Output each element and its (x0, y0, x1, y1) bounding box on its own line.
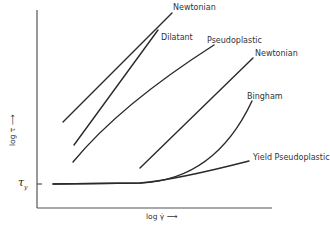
bingham-curve (53, 101, 252, 184)
tau-subscript: y (24, 183, 27, 190)
tau-y-label: τy (18, 176, 27, 190)
label-pseudoplastic: Pseudoplastic (207, 37, 262, 45)
newtonian-top-line (63, 13, 172, 122)
y-axis-label: log τ ⟶ (8, 115, 17, 146)
label-bingham: Bingham (247, 93, 283, 101)
dilatant-line (74, 30, 158, 145)
yield-pseudoplastic-curve (53, 161, 249, 184)
label-dilatant: Dilatant (161, 34, 193, 42)
x-axis-label: log γ̇ ⟶ (146, 213, 177, 221)
pseudoplastic-curve (73, 45, 214, 162)
newtonian-lower-line (140, 58, 253, 168)
label-newtonian-top: Newtonian (173, 4, 216, 12)
label-yield-pseudoplastic: Yield Pseudoplastic (253, 154, 330, 162)
label-newtonian-lower: Newtonian (255, 50, 298, 58)
